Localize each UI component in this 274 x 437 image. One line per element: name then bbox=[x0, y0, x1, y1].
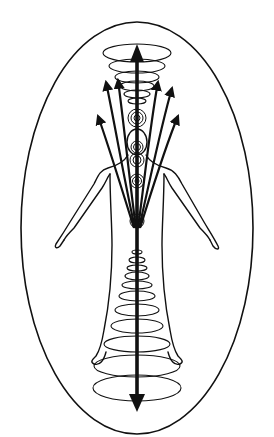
up-arrow-icon bbox=[130, 44, 144, 62]
energy-field-diagram bbox=[0, 0, 274, 437]
down-arrow-icon bbox=[129, 394, 145, 412]
